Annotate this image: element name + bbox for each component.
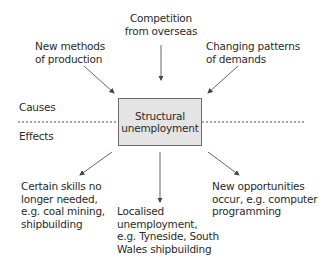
cause-new-methods: New methods of production [35, 40, 105, 65]
effect-localised: Localised unemployment, e.g. Tyneside, S… [117, 205, 219, 255]
region-label-effects: Effects [19, 130, 53, 143]
effect-new-opportunities: New opportunities occur, e.g. computer p… [212, 180, 317, 218]
effect-skills-not-needed: Certain skills no longer needed, e.g. co… [21, 180, 105, 230]
central-concept-box: Structural unemployment [118, 98, 202, 146]
cause-changing-patterns: Changing patterns of demands [206, 40, 300, 65]
arrow-new-methods [84, 66, 114, 93]
cause-competition: Competition from overseas [118, 12, 204, 37]
region-label-causes: Causes [19, 101, 56, 114]
arrow-changing-patterns [208, 66, 238, 93]
central-concept-label: Structural unemployment [121, 110, 198, 135]
arrow-skills [80, 152, 112, 175]
arrow-new-opportunities [208, 152, 239, 175]
